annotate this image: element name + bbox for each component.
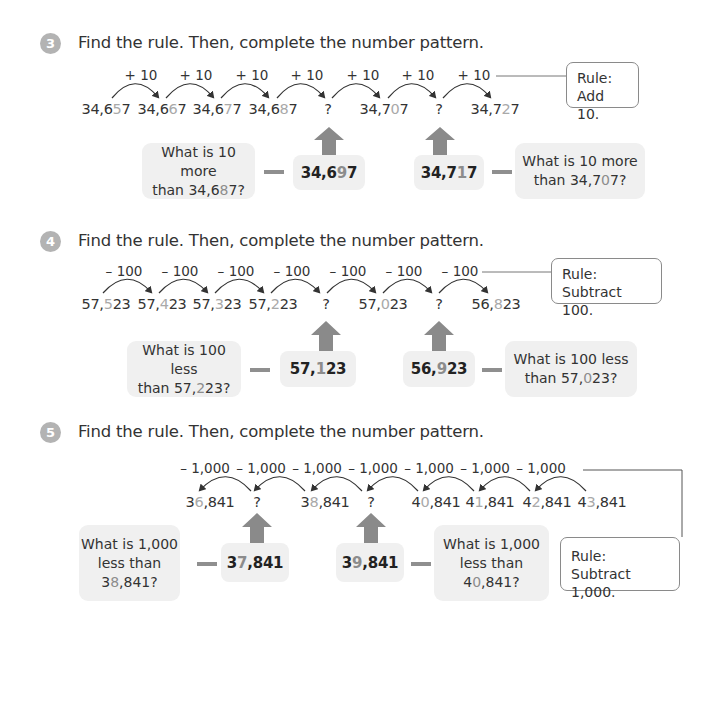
instruction-text: Find the rule. Then, complete the number…	[78, 231, 484, 250]
pattern-term-blank[interactable]: ?	[367, 494, 374, 510]
pattern-term: 57,423	[138, 296, 187, 312]
operation-label: + 10	[236, 67, 269, 83]
up-arrow-icons-problem-4	[311, 321, 454, 351]
pattern-term-blank[interactable]: ?	[435, 296, 442, 312]
pattern-term: 34,677	[193, 101, 242, 117]
question-box: What is 1,000less than40,841?	[434, 525, 549, 601]
operation-label: – 100	[106, 263, 143, 279]
rule-label: Rule:	[577, 69, 628, 87]
operation-label: + 10	[291, 67, 324, 83]
operation-label: – 1,000	[404, 460, 454, 476]
operation-label: – 1,000	[180, 460, 230, 476]
operation-label: + 10	[125, 67, 158, 83]
operation-label: + 10	[180, 67, 213, 83]
operation-label: – 1,000	[460, 460, 510, 476]
arc-arrows-problem-4	[103, 279, 487, 293]
connector-dash	[250, 368, 270, 372]
answer-box: 34,717	[414, 155, 484, 190]
answer-box: 34,697	[293, 155, 365, 190]
pattern-term: 57,023	[359, 296, 408, 312]
question-box: What is 10 morethan 34,707?	[515, 143, 645, 199]
pattern-term: 43,841	[578, 494, 627, 510]
operation-label: + 10	[347, 67, 380, 83]
pattern-term: 34,687	[249, 101, 298, 117]
pattern-term: 36,841	[186, 494, 235, 510]
pattern-term-blank[interactable]: ?	[324, 101, 331, 117]
pattern-term-blank[interactable]: ?	[435, 101, 442, 117]
pattern-term: 34,727	[471, 101, 520, 117]
pattern-term: 34,657	[82, 101, 131, 117]
rule-box: Rule: Subtract 1,000.	[560, 537, 680, 591]
pattern-term: 57,223	[249, 296, 298, 312]
pattern-term: 57,523	[82, 296, 131, 312]
rule-label: Rule:	[571, 547, 669, 565]
instruction-text: Find the rule. Then, complete the number…	[78, 33, 484, 52]
connector-dash	[482, 368, 502, 372]
question-box: What is 100 lessthan 57,023?	[505, 341, 637, 397]
answer-box: 57,123	[280, 351, 356, 387]
pattern-term: 56,823	[472, 296, 521, 312]
rule-text: Add 10.	[577, 87, 628, 123]
operation-label: + 10	[402, 67, 435, 83]
problem-number-badge: 5	[40, 422, 61, 443]
connector-dash	[411, 562, 431, 566]
rule-box: Rule: Subtract 100.	[551, 258, 662, 304]
operation-label: + 10	[458, 67, 491, 83]
rule-label: Rule:	[562, 265, 651, 283]
up-arrow-icons-problem-5	[242, 513, 386, 543]
problem-number-badge: 3	[40, 33, 61, 54]
question-box: What is 100 lessthan 57,223?	[127, 341, 241, 397]
operation-label: – 100	[330, 263, 367, 279]
operation-label: – 100	[386, 263, 423, 279]
rule-text: Subtract 1,000.	[571, 565, 669, 601]
rule-text: Subtract 100.	[562, 283, 651, 319]
pattern-term: 34,667	[138, 101, 187, 117]
pattern-term: 34,707	[360, 101, 409, 117]
connector-dash	[264, 170, 284, 174]
operation-label: – 1,000	[292, 460, 342, 476]
up-arrow-icons-problem-3	[314, 127, 455, 155]
pattern-term: 57,323	[193, 296, 242, 312]
instruction-text: Find the rule. Then, complete the number…	[78, 422, 484, 441]
pattern-term: 42,841	[523, 494, 572, 510]
operation-label: – 100	[442, 263, 479, 279]
arc-arrows-problem-3	[112, 84, 490, 98]
operation-label: – 1,000	[236, 460, 286, 476]
connector-dash	[492, 170, 512, 174]
pattern-term: 38,841	[301, 494, 350, 510]
operation-label: – 1,000	[348, 460, 398, 476]
answer-box: 39,841	[336, 543, 404, 582]
pattern-term-blank[interactable]: ?	[253, 494, 260, 510]
connector-dash	[197, 562, 217, 566]
question-box: What is 10 morethan 34,687?	[142, 143, 255, 199]
pattern-term: 40,841	[412, 494, 461, 510]
pattern-term: 41,841	[466, 494, 515, 510]
operation-label: – 1,000	[516, 460, 566, 476]
answer-box: 37,841	[221, 543, 289, 582]
problem-number-badge: 4	[40, 231, 61, 252]
operation-label: – 100	[274, 263, 311, 279]
answer-box: 56,923	[403, 351, 475, 387]
pattern-term-blank[interactable]: ?	[322, 296, 329, 312]
arc-arrows-problem-5	[200, 477, 586, 491]
operation-label: – 100	[218, 263, 255, 279]
operation-label: – 100	[162, 263, 199, 279]
question-box: What is 1,000less than38,841?	[79, 525, 180, 601]
rule-box: Rule: Add 10.	[566, 62, 639, 108]
